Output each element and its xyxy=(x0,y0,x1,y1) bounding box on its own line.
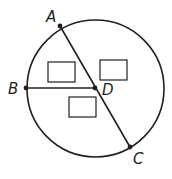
point-c-marker xyxy=(128,145,133,150)
point-b-marker xyxy=(24,86,29,91)
answer-box-3[interactable] xyxy=(69,97,96,117)
diagram-canvas: ABCD xyxy=(0,0,172,179)
circle-diagram: ABCD xyxy=(0,0,172,179)
answer-box-2[interactable] xyxy=(100,60,127,80)
point-a-label: A xyxy=(45,8,56,26)
point-d-marker xyxy=(93,86,98,91)
point-b-label: B xyxy=(8,80,18,98)
answer-box-1[interactable] xyxy=(48,62,75,82)
point-c-label: C xyxy=(133,150,144,168)
point-d-label: D xyxy=(102,81,114,99)
point-a-marker xyxy=(58,24,63,29)
